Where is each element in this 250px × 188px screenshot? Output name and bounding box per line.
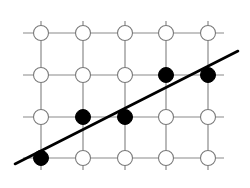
empty-node-r2-c0 <box>34 110 49 125</box>
empty-node-r3-c4 <box>201 151 216 166</box>
empty-node-r3-c1 <box>76 151 91 166</box>
empty-node-r3-c3 <box>159 151 174 166</box>
empty-node-r3-c2 <box>118 151 133 166</box>
filled-node-r1-c3 <box>159 68 174 83</box>
empty-node-r0-c4 <box>201 26 216 41</box>
empty-node-r2-c3 <box>159 110 174 125</box>
empty-node-r1-c0 <box>34 68 49 83</box>
empty-node-r0-c3 <box>159 26 174 41</box>
empty-node-r1-c1 <box>76 68 91 83</box>
empty-node-r0-c1 <box>76 26 91 41</box>
empty-node-r0-c2 <box>118 26 133 41</box>
grid-lines <box>23 21 224 170</box>
lattice-diagram <box>0 0 250 188</box>
empty-node-r0-c0 <box>34 26 49 41</box>
filled-node-r2-c1 <box>76 110 91 125</box>
empty-node-r2-c4 <box>201 110 216 125</box>
empty-node-r1-c2 <box>118 68 133 83</box>
